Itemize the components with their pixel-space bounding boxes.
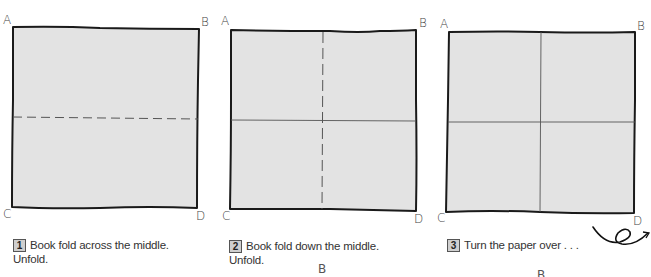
turn-over-arrow-icon: [593, 227, 649, 244]
corner-label-b: B: [201, 16, 209, 28]
corner-label-b-partial: B: [318, 262, 326, 276]
step-text: Book fold across the middle.: [30, 239, 169, 251]
corner-label-a: A: [221, 15, 229, 27]
step-2-caption: 2Book fold down the middle. Unfold.: [229, 239, 379, 267]
origami-diagram: [0, 0, 651, 277]
step-text: Turn the paper over . . .: [464, 239, 579, 251]
corner-label-a: A: [3, 14, 11, 26]
step-number-badge: 3: [447, 239, 460, 252]
step-number-badge: 2: [229, 240, 242, 253]
corner-label-b-partial: B: [537, 268, 545, 277]
step-text: Book fold down the middle.: [246, 240, 379, 252]
corner-label-b: B: [637, 20, 645, 32]
corner-label-d: D: [196, 210, 205, 222]
step-3-caption: 3Turn the paper over . . .: [447, 238, 579, 252]
corner-label-c: C: [437, 212, 445, 224]
step-3-square: [446, 32, 635, 214]
corner-label-a: A: [440, 18, 448, 30]
step-2-square: [230, 30, 417, 211]
corner-label-d: D: [633, 215, 642, 227]
step-number-badge: 1: [13, 239, 26, 252]
corner-label-c: C: [222, 210, 230, 222]
step-1-square: [12, 27, 199, 209]
step-1-caption: 1Book fold across the middle. Unfold.: [13, 238, 169, 266]
corner-label-c: C: [3, 208, 11, 220]
corner-label-b: B: [419, 17, 427, 29]
corner-label-d: D: [414, 213, 423, 225]
step-text: Unfold.: [229, 254, 264, 266]
step-text: Unfold.: [13, 253, 48, 265]
